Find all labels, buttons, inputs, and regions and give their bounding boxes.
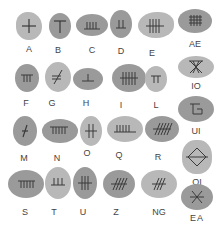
label-ui: UI bbox=[181, 126, 211, 136]
ogham-ae-icon bbox=[178, 9, 212, 33]
ogham-e-icon bbox=[138, 12, 174, 38]
stone-m bbox=[13, 116, 37, 146]
stone-b bbox=[49, 13, 71, 39]
label-r: R bbox=[143, 152, 173, 162]
ogham-f-icon bbox=[15, 64, 39, 92]
stone-ng bbox=[141, 170, 177, 198]
label-ae: AE bbox=[180, 39, 210, 49]
stone-l bbox=[145, 66, 167, 92]
stone-r bbox=[145, 116, 179, 142]
ogham-z-icon bbox=[103, 170, 135, 198]
ogham-l-icon bbox=[145, 66, 167, 92]
ogham-t-icon bbox=[45, 167, 71, 199]
label-ea: EA bbox=[182, 213, 212, 223]
label-g: G bbox=[37, 98, 67, 108]
label-h: H bbox=[71, 98, 101, 108]
label-t: T bbox=[39, 207, 69, 217]
label-o: O bbox=[72, 148, 102, 158]
stone-oi bbox=[182, 140, 212, 174]
ogham-i-icon bbox=[112, 64, 146, 92]
ogham-b-icon bbox=[49, 13, 71, 39]
stone-s bbox=[8, 170, 44, 198]
ogham-a-icon bbox=[16, 12, 42, 40]
ogham-r-icon bbox=[145, 116, 179, 142]
stone-n bbox=[42, 119, 78, 143]
stone-z bbox=[103, 170, 135, 198]
label-a: A bbox=[14, 44, 44, 54]
ogham-q-icon bbox=[107, 116, 143, 142]
ogham-ui-icon bbox=[178, 96, 214, 122]
stone-ui bbox=[178, 96, 214, 122]
ogham-g-icon bbox=[45, 62, 71, 92]
stone-io bbox=[178, 56, 214, 78]
stone-o bbox=[80, 116, 102, 146]
ogham-o-icon bbox=[80, 116, 102, 146]
label-l: L bbox=[141, 100, 171, 110]
stone-e bbox=[138, 12, 174, 38]
label-z: Z bbox=[101, 207, 131, 217]
stone-d bbox=[110, 10, 132, 38]
label-c: C bbox=[77, 45, 107, 55]
label-n: N bbox=[42, 153, 72, 163]
label-q: Q bbox=[104, 150, 134, 160]
stone-t bbox=[45, 167, 71, 199]
stone-u bbox=[73, 167, 97, 199]
label-io: IO bbox=[181, 81, 211, 91]
stone-ae bbox=[178, 9, 212, 33]
ogham-oi-icon bbox=[182, 140, 212, 174]
stone-h bbox=[73, 68, 103, 90]
ogham-ng-icon bbox=[141, 170, 177, 198]
ogham-u-icon bbox=[73, 167, 97, 199]
label-d: D bbox=[106, 46, 136, 56]
label-ng: NG bbox=[144, 207, 174, 217]
ogham-h-icon bbox=[73, 68, 103, 90]
ogham-ea-icon bbox=[181, 184, 213, 210]
stone-f bbox=[15, 64, 39, 92]
stone-a bbox=[16, 12, 42, 40]
stone-q bbox=[107, 116, 143, 142]
ogham-io-icon bbox=[178, 56, 214, 78]
ogham-n-icon bbox=[42, 119, 78, 143]
ogham-s-icon bbox=[8, 170, 44, 198]
label-b: B bbox=[43, 45, 73, 55]
stone-ea bbox=[181, 184, 213, 210]
label-i: I bbox=[106, 100, 136, 110]
ogham-c-icon bbox=[76, 14, 108, 36]
stone-g bbox=[45, 62, 71, 92]
label-u: U bbox=[68, 207, 98, 217]
stone-i bbox=[112, 64, 146, 92]
label-e: E bbox=[137, 48, 167, 58]
label-m: M bbox=[9, 153, 39, 163]
ogham-d-icon bbox=[110, 10, 132, 38]
label-s: S bbox=[10, 207, 40, 217]
ogham-m-icon bbox=[13, 116, 37, 146]
stone-c bbox=[76, 14, 108, 36]
